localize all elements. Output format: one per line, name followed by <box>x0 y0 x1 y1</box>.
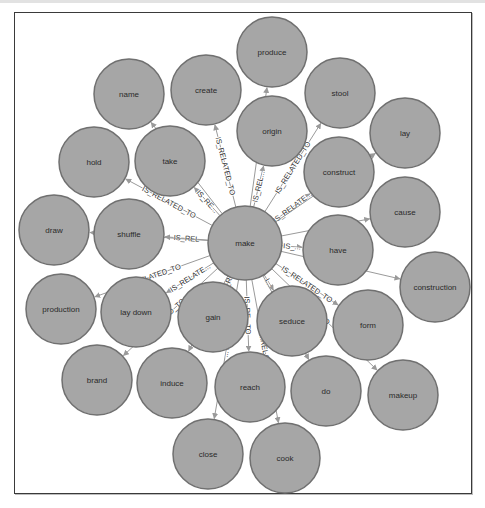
node-circle[interactable] <box>215 352 285 422</box>
node-circle[interactable] <box>237 96 307 166</box>
edge-make-have[interactable]: IS_... <box>282 241 302 251</box>
graph-node-lay[interactable]: lay <box>370 98 440 168</box>
graph-node-reach[interactable]: reach <box>215 352 285 422</box>
graph-node-hold[interactable]: hold <box>59 127 129 197</box>
graph-node-do[interactable]: do <box>291 356 361 426</box>
node-circle[interactable] <box>62 345 132 415</box>
graph-node-brand[interactable]: brand <box>62 345 132 415</box>
node-circle[interactable] <box>59 127 129 197</box>
graph-node-produce[interactable]: produce <box>237 17 307 87</box>
node-circle[interactable] <box>173 419 243 489</box>
graph-node-makeup[interactable]: makeup <box>368 360 438 430</box>
node-circle[interactable] <box>303 215 373 285</box>
graph-node-construct[interactable]: construct <box>304 137 374 207</box>
graph-node-shuffle[interactable]: shuffle <box>94 199 164 269</box>
edge-label: IS_RELATED_TO <box>214 136 238 196</box>
node-circle[interactable] <box>250 423 320 493</box>
node-circle[interactable] <box>19 195 89 265</box>
node-circle[interactable] <box>237 17 307 87</box>
edge-make-take[interactable]: IS_RE... <box>194 188 220 216</box>
node-circle[interactable] <box>370 177 440 247</box>
graph-node-form[interactable]: form <box>333 290 403 360</box>
graph-node-create[interactable]: create <box>171 55 241 125</box>
graph-node-stool[interactable]: stool <box>305 58 375 128</box>
nodes-layer: makeproducenamecreatestooloriginlayholdt… <box>19 17 470 493</box>
node-circle[interactable] <box>178 282 248 352</box>
graph-node-take[interactable]: take <box>135 126 205 196</box>
graph-node-induce[interactable]: induce <box>137 348 207 418</box>
graph-node-gain[interactable]: gain <box>178 282 248 352</box>
node-circle[interactable] <box>171 55 241 125</box>
node-circle[interactable] <box>333 290 403 360</box>
graph-node-origin[interactable]: origin <box>237 96 307 166</box>
node-circle[interactable] <box>291 356 361 426</box>
node-circle[interactable] <box>257 286 327 356</box>
node-circle[interactable] <box>400 252 470 322</box>
node-circle[interactable] <box>26 274 96 344</box>
graph-node-construction[interactable]: construction <box>400 252 470 322</box>
graph-node-name[interactable]: name <box>94 59 164 129</box>
edge-make-construct[interactable]: IS_RELATE... <box>271 190 313 225</box>
node-circle[interactable] <box>135 126 205 196</box>
edge-make-seduce[interactable]: I... <box>263 275 275 290</box>
node-circle[interactable] <box>305 58 375 128</box>
edge-label: IS_RELATE... <box>271 190 313 225</box>
node-circle[interactable] <box>370 98 440 168</box>
node-circle[interactable] <box>137 348 207 418</box>
graph-node-close[interactable]: close <box>173 419 243 489</box>
node-circle[interactable] <box>208 206 282 280</box>
graph-node-lay_down[interactable]: lay down <box>101 277 171 347</box>
node-circle[interactable] <box>101 277 171 347</box>
edge-label: IS_RE... <box>194 188 219 215</box>
node-circle[interactable] <box>94 199 164 269</box>
node-circle[interactable] <box>304 137 374 207</box>
edge-make-create[interactable]: IS_RELATED_TO <box>214 125 238 207</box>
graph-node-cook[interactable]: cook <box>250 423 320 493</box>
graph-node-make[interactable]: make <box>208 206 282 280</box>
graph-node-cause[interactable]: cause <box>370 177 440 247</box>
graph-canvas[interactable]: IS_RELATED_TOIS_REL...IS_R...IS_RELATED_… <box>0 0 485 508</box>
graph-node-draw[interactable]: draw <box>19 195 89 265</box>
node-circle[interactable] <box>94 59 164 129</box>
graph-node-production[interactable]: production <box>26 274 96 344</box>
edge-label: IS_... <box>283 241 301 251</box>
graph-node-have[interactable]: have <box>303 215 373 285</box>
graph-node-seduce[interactable]: seduce <box>257 286 327 356</box>
node-circle[interactable] <box>368 360 438 430</box>
